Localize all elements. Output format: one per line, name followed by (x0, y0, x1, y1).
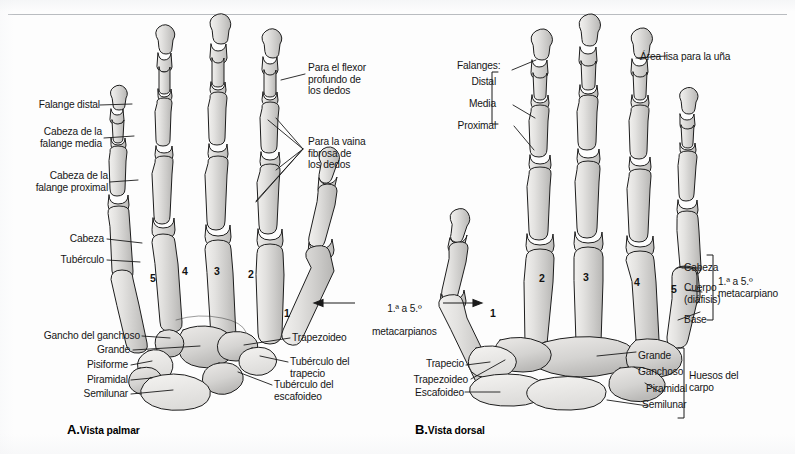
bonenum-b-1: 1 (490, 307, 496, 319)
bonenum-a-5: 5 (150, 272, 156, 284)
bonenum-b-2: 2 (539, 272, 545, 284)
panel-b-letter: B. (415, 422, 428, 437)
label-tuberculo-del-trapecio: Tubérculo deltrapecio (290, 356, 390, 379)
center-metacarpianos-annotation: 1.ª a 5.º metacarpianos (356, 291, 442, 349)
label-piramidal-a: Piramidal (48, 374, 128, 386)
label-trapecio-b: Trapecio (400, 358, 464, 370)
label-para-flexor-profundo: Para el flexorprofundo delos dedos (308, 62, 394, 97)
label-ganchoso-b: Ganchoso (638, 366, 683, 378)
label-pisiforme-a: Pisiforme (48, 359, 128, 371)
label-cabeza-a: Cabeza (30, 233, 104, 245)
label-escafoideo-b: Escafoideo (396, 387, 464, 399)
bonenum-b-4: 4 (634, 276, 640, 288)
bonenum-a-2: 2 (248, 268, 254, 280)
label-base-b: Base (684, 314, 707, 326)
label-cabeza-b: Cabeza (684, 262, 718, 274)
label-falange-media-b: Media (450, 98, 496, 110)
label-huesos-carpo-caption: Huesos delcarpo (689, 370, 761, 393)
label-falange-distal-a: Falange distal (10, 99, 100, 111)
label-para-vaina-fibrosa: Para la vainafibrosa delos dedos (308, 136, 394, 171)
label-semilunar-b: Semilunar (642, 399, 687, 411)
bonenum-a-3: 3 (214, 265, 220, 277)
bonenum-b-3: 3 (583, 271, 589, 283)
panel-b-title: B.Vista dorsal (404, 411, 485, 448)
label-tuberculo-a: Tubérculo (26, 254, 104, 266)
label-cabeza-falange-proximal: Cabeza de lafalange proximal (6, 170, 108, 193)
center-annotation-line1: 1.ª a 5.º (387, 303, 421, 314)
center-annotation-line2: metacarpianos (372, 326, 437, 337)
label-cabeza-falange-media: Cabeza de lafalange media (6, 126, 102, 149)
bonenum-a-1: 1 (284, 307, 290, 319)
panel-a-title-text: Vista palmar (80, 425, 140, 436)
label-piramidal-b: Piramidal (646, 383, 687, 395)
label-grande-a: Grande (54, 344, 130, 356)
label-grande-b: Grande (638, 350, 671, 362)
label-semilunar-a: Semilunar (48, 388, 128, 400)
figure-canvas: Falange distal Cabeza de lafalange media… (0, 0, 795, 454)
panel-b-title-text: Vista dorsal (428, 425, 485, 436)
panel-a-title: A.Vista palmar (56, 411, 140, 448)
label-falange-distal-b: Distal (450, 76, 496, 88)
label-falange-proximal-b: Proximal (440, 120, 496, 132)
bonenum-b-5: 5 (671, 283, 677, 295)
panel-a-bones (108, 14, 340, 411)
label-area-lisa-una: Área lisa para la uña (640, 51, 790, 63)
label-falanges-heading: Falanges: (457, 60, 500, 72)
bonenum-a-4: 4 (182, 265, 188, 277)
label-trapezoideo-b: Trapezoideo (390, 374, 468, 386)
panel-a-letter: A. (67, 422, 80, 437)
label-gancho-del-ganchoso: Gancho del ganchoso (10, 330, 140, 342)
label-metacarpiano-bracket-caption: 1.ª a 5.ºmetacarpiano (718, 276, 794, 299)
label-tuberculo-del-escafoideo: Tubérculo delescafoideo (274, 379, 384, 402)
